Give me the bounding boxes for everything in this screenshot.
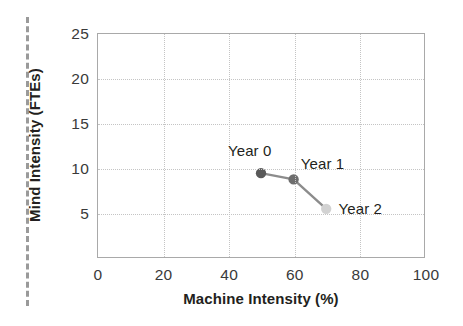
plot-area: 510152025020406080100Year 0Year 1Year 2 (97, 33, 425, 258)
data-point-label: Year 0 (228, 142, 271, 159)
y-tick-label: 20 (71, 70, 89, 88)
x-tick-label: 20 (155, 266, 173, 284)
y-axis-title: Mind Intensity (FTEs) (26, 68, 43, 222)
y-tick-label: 5 (80, 205, 89, 223)
data-point-label: Year 2 (339, 200, 382, 217)
y-tick-label: 25 (71, 25, 89, 43)
series-line-segment (294, 179, 327, 208)
gridline-horizontal (98, 169, 424, 170)
gridline-vertical (164, 34, 165, 257)
gridline-vertical (295, 34, 296, 257)
y-tick-label: 10 (71, 160, 89, 178)
x-tick-label: 100 (413, 266, 439, 284)
data-point-marker[interactable] (321, 204, 331, 214)
chart-figure: 510152025020406080100Year 0Year 1Year 2 … (0, 0, 463, 326)
data-point-marker[interactable] (288, 174, 298, 184)
x-tick-label: 80 (352, 266, 370, 284)
x-axis-title: Machine Intensity (%) (97, 290, 425, 307)
x-tick-label: 60 (286, 266, 304, 284)
x-tick-label: 0 (94, 266, 103, 284)
x-tick-label: 40 (220, 266, 238, 284)
gridline-horizontal (98, 124, 424, 125)
gridline-vertical (360, 34, 361, 257)
gridline-horizontal (98, 79, 424, 80)
y-tick-label: 15 (71, 115, 89, 133)
data-point-label: Year 1 (301, 155, 344, 172)
